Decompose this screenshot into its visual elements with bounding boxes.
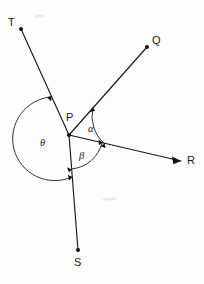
- arrowhead-beta-start: [67, 167, 72, 172]
- point-label-T: T: [8, 17, 15, 28]
- ray-PR: [69, 135, 181, 161]
- ray-PT: [21, 29, 69, 135]
- ray-PQ: [69, 47, 147, 135]
- vertex-label-P: P: [66, 112, 73, 123]
- endpoint-dot-S: [76, 248, 80, 252]
- angle-label-beta: β: [79, 151, 84, 162]
- angle-label-alpha: α: [88, 124, 94, 135]
- smudge-layer: [34, 14, 118, 201]
- arrowhead-alpha-end: [90, 108, 96, 113]
- vertex-dot-P: [67, 133, 71, 137]
- smudge-top: [34, 14, 44, 18]
- angle-label-theta: θ: [40, 138, 45, 149]
- arc-beta: [72, 143, 102, 169]
- endpoint-dot-T: [19, 27, 23, 31]
- geometry-figure: P T Q R S α β θ: [0, 0, 204, 284]
- smudge-mid: [102, 197, 118, 201]
- endpoint-dot-Q: [145, 45, 149, 49]
- arcs-layer: [13, 96, 106, 180]
- point-label-Q: Q: [152, 35, 161, 46]
- arrowhead-R: [172, 157, 181, 165]
- point-label-R: R: [187, 155, 195, 166]
- ray-PS: [69, 135, 78, 250]
- figure-canvas: [0, 0, 204, 284]
- point-label-S: S: [74, 257, 81, 268]
